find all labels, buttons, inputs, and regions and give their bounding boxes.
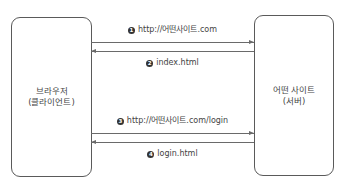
message-2-label: 2index.html [91,58,254,68]
server-sublabel: (서버) [283,96,306,107]
server-label: 어떤 사이트 [273,85,316,96]
arrowhead-left-icon [91,140,96,144]
arrowhead-right-icon [249,131,254,135]
arrow-response-4 [91,142,254,143]
step-1-marker: 1 [128,27,135,34]
message-1-text: http://어떤사이트.com [138,25,217,34]
arrow-request-3 [91,133,254,134]
step-4-marker: 4 [147,151,154,158]
arrow-request-1 [91,42,254,43]
arrow-response-2 [91,51,254,52]
message-4-text: login.html [157,149,197,158]
client-box: 브라우저 (클라이언트) [11,17,92,177]
client-label: 브라우저 [36,86,68,97]
step-3-marker: 3 [117,118,124,125]
message-3-label: 3http://어떤사이트.com/login [91,116,254,126]
message-1-label: 1http://어떤사이트.com [91,25,254,35]
message-2-text: index.html [156,58,199,67]
message-4-label: 4login.html [91,149,254,159]
server-box: 어떤 사이트 (서버) [254,15,334,176]
arrowhead-left-icon [91,49,96,53]
arrowhead-right-icon [249,40,254,44]
client-sublabel: (클라이언트) [28,97,75,108]
step-2-marker: 2 [146,60,153,67]
message-3-text: http://어떤사이트.com/login [127,116,228,125]
